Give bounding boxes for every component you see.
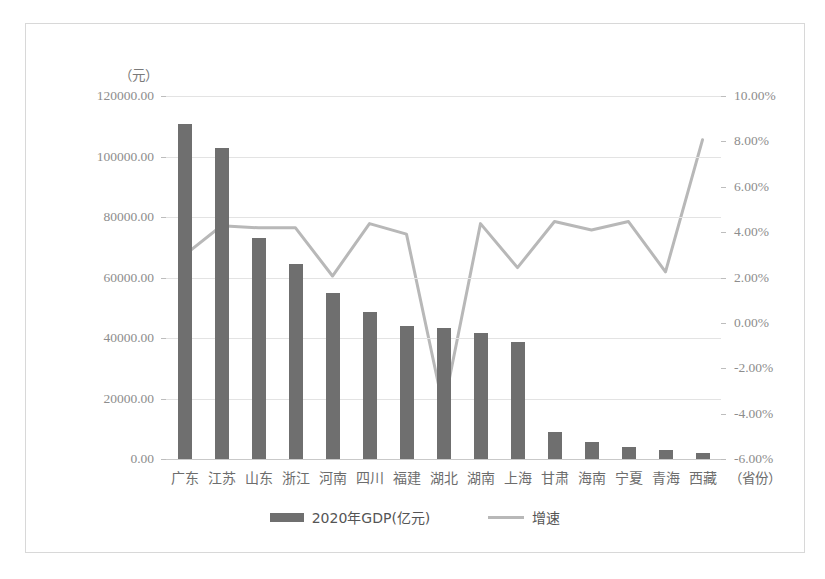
x-axis-tick-label: 江苏 [208, 467, 236, 487]
bar-swatch-icon [270, 513, 304, 522]
right-axis-tick [721, 459, 726, 460]
left-axis-tick [161, 157, 166, 158]
plot-area: 0.0020000.0040000.0060000.0080000.001000… [166, 96, 721, 459]
bar [437, 328, 451, 459]
left-axis-tick-label: 20000.00 [103, 391, 154, 407]
right-axis-tick [721, 414, 726, 415]
x-axis-tick-label: 湖北 [430, 467, 458, 487]
chart-frame: （元） 0.0020000.0040000.0060000.0080000.00… [25, 23, 805, 553]
x-axis-tick-label: 福建 [393, 467, 421, 487]
gridline [166, 278, 721, 279]
bar [178, 124, 192, 459]
right-axis-tick-label: 10.00% [734, 88, 776, 104]
right-axis-tick [721, 323, 726, 324]
left-axis-tick-label: 120000.00 [97, 88, 154, 104]
right-axis-tick-label: 0.00% [734, 315, 769, 331]
x-axis-tick-label: 浙江 [282, 467, 310, 487]
left-axis-unit-label: （元） [119, 64, 158, 84]
line-swatch-icon [488, 516, 524, 519]
x-axis-tick-label: 湖南 [467, 467, 495, 487]
bar [215, 148, 229, 459]
right-axis-tick-label: -6.00% [734, 451, 773, 467]
right-axis-tick [721, 141, 726, 142]
left-axis-tick-label: 40000.00 [103, 330, 154, 346]
legend-entry-gdp[interactable]: 2020年GDP(亿元) [270, 507, 431, 527]
x-axis-line [166, 459, 721, 460]
bar [511, 342, 525, 459]
right-axis-tick [721, 232, 726, 233]
x-axis-tick-label: 甘肃 [541, 467, 569, 487]
right-axis-tick-label: 8.00% [734, 133, 769, 149]
left-axis-tick-label: 80000.00 [103, 209, 154, 225]
left-axis-tick [161, 278, 166, 279]
bar [622, 447, 636, 459]
right-axis-tick [721, 96, 726, 97]
right-axis-tick-label: 4.00% [734, 224, 769, 240]
bar [696, 453, 710, 459]
right-axis-tick [721, 278, 726, 279]
bar [363, 312, 377, 459]
x-axis-tick-label: 上海 [504, 467, 532, 487]
left-axis-tick-label: 100000.00 [97, 149, 154, 165]
legend-label-growth: 增速 [532, 507, 560, 527]
right-axis-tick-label: -4.00% [734, 406, 773, 422]
legend-entry-growth[interactable]: 增速 [488, 507, 560, 527]
bar [400, 326, 414, 459]
x-axis-tick-label: 四川 [356, 467, 384, 487]
left-axis-tick-label: 60000.00 [103, 270, 154, 286]
x-axis-tick-label: 山东 [245, 467, 273, 487]
left-axis-tick [161, 338, 166, 339]
bar [659, 450, 673, 459]
right-axis-tick-label: 2.00% [734, 270, 769, 286]
gridline [166, 157, 721, 158]
left-axis-tick-label: 0.00 [130, 451, 154, 467]
bar [289, 264, 303, 459]
x-axis-tick-label: 河南 [319, 467, 347, 487]
bar [474, 333, 488, 459]
x-axis-tick-label: 广东 [171, 467, 199, 487]
x-axis-tick-label: 青海 [652, 467, 680, 487]
left-axis-tick [161, 96, 166, 97]
x-axis-tick-label: 西藏 [689, 467, 717, 487]
right-axis-tick [721, 187, 726, 188]
x-axis-tick-label: 宁夏 [615, 467, 643, 487]
chart-legend: 2020年GDP(亿元) 增速 [26, 507, 804, 527]
x-axis-tick-label: 海南 [578, 467, 606, 487]
left-axis-tick [161, 459, 166, 460]
bar [585, 442, 599, 459]
legend-label-gdp: 2020年GDP(亿元) [312, 507, 431, 527]
right-axis-tick-label: -2.00% [734, 360, 773, 376]
gridline [166, 96, 721, 97]
left-axis-tick [161, 399, 166, 400]
bar [326, 293, 340, 459]
gridline [166, 217, 721, 218]
left-axis-tick [161, 217, 166, 218]
right-axis-tick [721, 368, 726, 369]
right-axis-tick-label: 6.00% [734, 179, 769, 195]
bar [252, 238, 266, 459]
x-axis-title: （省份） [729, 467, 781, 487]
bar [548, 432, 562, 459]
